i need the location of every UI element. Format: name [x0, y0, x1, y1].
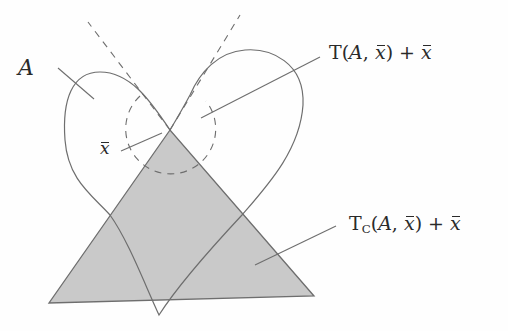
tangent-cone-prefix: T(: [329, 41, 349, 63]
label-clarke-cone: TC(A, x) + x: [349, 214, 461, 236]
label-point-xbar: x: [100, 140, 110, 157]
clarke-cone-region: [49, 130, 314, 303]
clarke-cone-prefix: T: [349, 212, 362, 234]
leader-line-xbar: [121, 133, 162, 151]
tangent-cone-set: A: [349, 41, 363, 63]
xbar-symbol: x: [100, 140, 110, 157]
clarke-cone-open: (: [371, 212, 378, 234]
tangent-cone-point: x: [375, 43, 386, 62]
leader-line-A: [58, 68, 94, 99]
clarke-cone-subscript: C: [362, 222, 371, 236]
label-tangent-cone: T(A, x) + x: [329, 43, 432, 62]
clarke-cone-point-2: x: [450, 214, 461, 233]
clarke-cone-sep: ,: [392, 212, 404, 234]
label-set-A: A: [18, 57, 34, 79]
tangent-line-left-dashed: [88, 22, 170, 130]
clarke-cone-point: x: [404, 214, 415, 233]
diagram-canvas: A x T(A, x) + x TC(A, x) + x: [0, 0, 508, 331]
tangent-cone-sep: ,: [363, 41, 375, 63]
tangent-cone-point-2: x: [421, 43, 432, 62]
clarke-cone-set: A: [378, 212, 392, 234]
clarke-cone-suffix: ) +: [415, 212, 450, 234]
tangent-cone-suffix: ) +: [386, 41, 421, 63]
